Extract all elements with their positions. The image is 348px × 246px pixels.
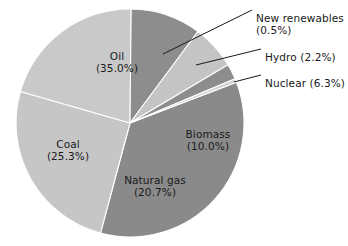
nuclear-leader bbox=[234, 75, 261, 82]
slice-label-oil: Oil (35.0%) bbox=[96, 50, 138, 74]
slice-label-natural-gas: Natural gas (20.7%) bbox=[124, 174, 186, 198]
slice-label-natural-gas-name: Natural gas bbox=[124, 174, 186, 186]
slice-label-biomass: Biomass (10.0%) bbox=[186, 128, 231, 152]
callout-label-nuclear-text: Nuclear (6.3%) bbox=[265, 77, 345, 89]
callout-label-new-renewables-percent: (0.5%) bbox=[256, 24, 344, 36]
slice-label-coal-name: Coal bbox=[47, 138, 89, 150]
slice-label-natural-gas-percent: (20.7%) bbox=[124, 186, 186, 198]
slice-label-oil-name: Oil bbox=[96, 50, 138, 62]
callout-label-hydro: Hydro (2.2%) bbox=[265, 51, 336, 63]
slice-label-biomass-percent: (10.0%) bbox=[186, 140, 231, 152]
pie-slices bbox=[16, 9, 244, 237]
callout-label-hydro-text: Hydro (2.2%) bbox=[265, 51, 336, 63]
slice-label-coal-percent: (25.3%) bbox=[47, 150, 89, 162]
slice-label-biomass-name: Biomass bbox=[186, 128, 231, 140]
callout-label-new-renewables: New renewables (0.5%) bbox=[256, 12, 344, 36]
callout-label-new-renewables-name: New renewables bbox=[256, 12, 344, 24]
pie-chart: Oil (35.0%) Coal (25.3%) Natural gas (20… bbox=[0, 0, 348, 246]
callout-label-nuclear: Nuclear (6.3%) bbox=[265, 77, 345, 89]
slice-label-coal: Coal (25.3%) bbox=[47, 138, 89, 162]
slice-label-oil-percent: (35.0%) bbox=[96, 62, 138, 74]
pie-chart-svg bbox=[0, 0, 348, 246]
